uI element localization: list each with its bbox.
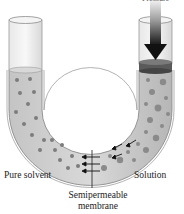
u-tube-diagram [0,0,184,214]
liquid-u [9,70,172,185]
pure-solvent-surface [9,67,42,73]
piston [139,59,172,74]
solution-label: Solution [134,170,166,181]
membrane-label-line2: membrane [62,201,134,212]
membrane-label: Semipermeable membrane [62,190,134,212]
left-tube-upper [9,17,42,71]
pure-solvent-label: Pure solvent [4,170,51,181]
pressure-label: Pressure [142,0,169,4]
membrane-label-line1: Semipermeable [62,190,134,201]
